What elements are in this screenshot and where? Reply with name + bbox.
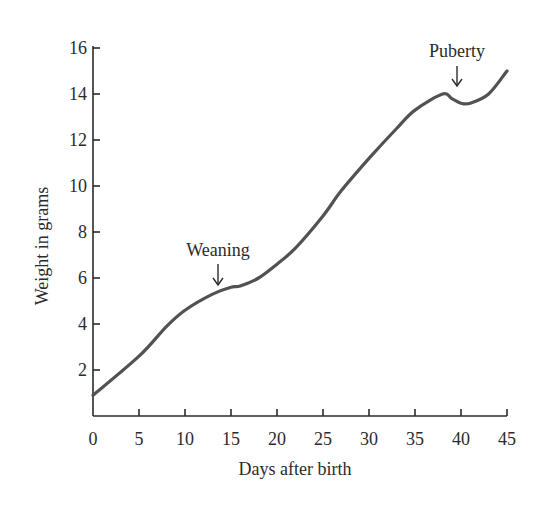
x-tick-label: 5 [135, 429, 144, 449]
x-tick-label: 20 [268, 429, 286, 449]
growth-chart: 051015202530354045 246810121416 Days aft… [0, 0, 548, 507]
y-tick-label: 4 [78, 314, 87, 334]
y-ticks: 246810121416 [69, 38, 100, 380]
x-tick-label: 15 [222, 429, 240, 449]
x-tick-label: 45 [498, 429, 516, 449]
x-tick-label: 30 [360, 429, 378, 449]
puberty-label: Puberty [429, 41, 485, 61]
y-tick-label: 8 [78, 222, 87, 242]
x-tick-label: 35 [406, 429, 424, 449]
weight-curve [93, 71, 507, 395]
x-axis-title: Days after birth [239, 459, 352, 479]
weaning-label: Weaning [186, 240, 250, 260]
puberty-arrow-icon [452, 66, 462, 86]
y-axis-title: Weight in grams [32, 187, 52, 306]
y-tick-label: 14 [69, 84, 87, 104]
y-tick-label: 10 [69, 176, 87, 196]
weaning-arrow-icon [213, 264, 223, 285]
x-tick-label: 25 [314, 429, 332, 449]
y-tick-label: 6 [78, 268, 87, 288]
y-tick-label: 16 [69, 38, 87, 58]
puberty-annotation: Puberty [429, 41, 485, 86]
x-tick-label: 10 [176, 429, 194, 449]
weaning-annotation: Weaning [186, 240, 250, 285]
y-tick-label: 2 [78, 360, 87, 380]
axes [93, 46, 507, 416]
y-tick-label: 12 [69, 130, 87, 150]
x-tick-label: 40 [452, 429, 470, 449]
x-tick-label: 0 [89, 429, 98, 449]
x-ticks: 051015202530354045 [89, 409, 517, 449]
